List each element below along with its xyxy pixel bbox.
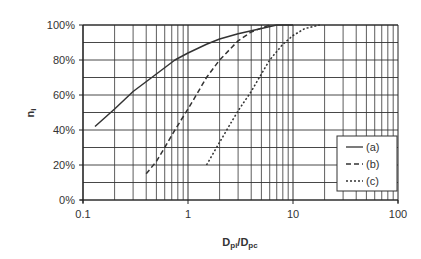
x-tick-label: 0.1 bbox=[75, 208, 90, 220]
y-tick-label: 20% bbox=[53, 159, 75, 171]
x-axis-title: Dpi/Dpc bbox=[222, 236, 258, 250]
x-tick-label: 1 bbox=[185, 208, 191, 220]
series-lines bbox=[95, 25, 320, 174]
x-tick-label: 10 bbox=[287, 208, 299, 220]
legend: (a) (b) (c) bbox=[337, 136, 397, 191]
y-tick-label: 60% bbox=[53, 89, 75, 101]
chart: 0%20%40%60%80%100% 0.1110100 ni Dpi/Dpc … bbox=[0, 0, 421, 259]
y-tick-label: 0% bbox=[59, 194, 75, 206]
series-line-a bbox=[95, 25, 293, 127]
x-tick-labels: 0.1110100 bbox=[75, 200, 407, 220]
y-tick-label: 40% bbox=[53, 124, 75, 136]
y-axis-title: ni bbox=[24, 109, 38, 118]
legend-label-a: (a) bbox=[366, 141, 379, 153]
y-tick-label: 80% bbox=[53, 54, 75, 66]
x-tick-label: 100 bbox=[389, 208, 407, 220]
y-tick-labels: 0%20%40%60%80%100% bbox=[47, 19, 83, 206]
legend-label-c: (c) bbox=[366, 175, 379, 187]
legend-label-b: (b) bbox=[366, 158, 379, 170]
y-tick-label: 100% bbox=[47, 19, 75, 31]
